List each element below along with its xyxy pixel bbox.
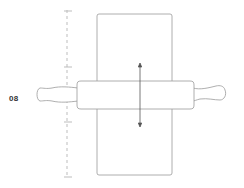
- right-handle: [193, 86, 226, 101]
- rolling-pin-body: [77, 81, 194, 109]
- left-handle: [37, 87, 78, 102]
- rolling-pin-diagram: [0, 0, 244, 188]
- rolling-pin: [37, 81, 226, 109]
